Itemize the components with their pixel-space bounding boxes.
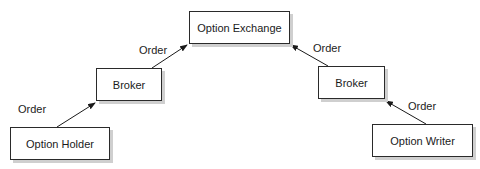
edge-label-broker-exchange-right: Order [313,42,341,54]
node-label: Option Writer [390,135,455,147]
node-option-writer: Option Writer [372,124,473,157]
edge-label-broker-exchange-left: Order [139,44,167,56]
node-label: Broker [335,77,367,89]
edge-label-writer-broker: Order [408,100,436,112]
node-broker-left: Broker [96,68,162,101]
node-label: Option Holder [26,138,94,150]
node-option-holder: Option Holder [10,127,110,160]
node-label: Option Exchange [197,22,281,34]
edge-label-holder-broker: Order [18,103,46,115]
node-broker-right: Broker [318,66,385,99]
arrow-holder-to-broker [57,103,95,127]
node-option-exchange: Option Exchange [189,11,290,44]
node-label: Broker [113,79,145,91]
